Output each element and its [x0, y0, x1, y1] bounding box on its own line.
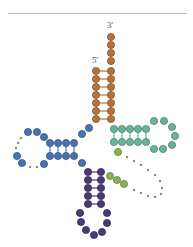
d-arm-nucleotide [13, 152, 20, 159]
variable-loop-nucleotide [106, 172, 113, 179]
t-arm-nucleotide [142, 125, 149, 132]
unpaired-dot [126, 156, 128, 158]
unpaired-dot [140, 164, 142, 166]
acceptor-nucleotide [107, 107, 114, 114]
unpaired-dot [161, 187, 163, 189]
anticodon-nucleotide [76, 209, 83, 216]
t-arm-nucleotide [134, 125, 141, 132]
d-arm-nucleotide [54, 139, 61, 146]
anticodon-nucleotide [103, 219, 110, 226]
acceptor-nucleotide [92, 115, 99, 122]
anticodon-nucleotide [97, 200, 104, 207]
variable-loop-nucleotide [120, 180, 127, 187]
unpaired-dot [133, 160, 135, 162]
base-pair-lines [50, 71, 146, 204]
unpaired-dot [154, 196, 156, 198]
unpaired-dot [15, 147, 17, 149]
d-arm-nucleotide [70, 152, 77, 159]
acceptor-nucleotide [107, 49, 114, 56]
t-arm-nucleotide [150, 117, 157, 124]
t-arm-nucleotide [168, 123, 175, 130]
acceptor-nucleotide [107, 99, 114, 106]
unpaired-dot [160, 193, 162, 195]
t-arm-nucleotide [118, 138, 125, 145]
anticodon-nucleotide [84, 200, 91, 207]
variable-loop-nucleotide [114, 148, 121, 155]
t-arm-nucleotide [142, 138, 149, 145]
acceptor-nucleotide [92, 75, 99, 82]
acceptor-nucleotide [92, 91, 99, 98]
acceptor-nucleotide [92, 107, 99, 114]
anticodon-nucleotide [84, 184, 91, 191]
t-arm-nucleotide [150, 145, 157, 152]
unpaired-dot [147, 195, 149, 197]
acceptor-nucleotide [92, 83, 99, 90]
acceptor-nucleotide [107, 41, 114, 48]
anticodon-nucleotide [97, 192, 104, 199]
t-arm-nucleotide [126, 125, 133, 132]
anticodon-nucleotide [90, 231, 97, 238]
d-arm-nucleotide [18, 159, 25, 166]
d-arm-nucleotide [78, 130, 85, 137]
anticodon-nucleotide [84, 192, 91, 199]
d-arm-nucleotide [85, 124, 92, 131]
unpaired-dot [154, 174, 156, 176]
unpaired-dot [17, 142, 19, 144]
d-arm-nucleotide [40, 133, 47, 140]
t-arm-nucleotide [134, 138, 141, 145]
d-arm-nucleotide [62, 139, 69, 146]
acceptor-nucleotide [107, 33, 114, 40]
d-arm-nucleotide [33, 128, 40, 135]
acceptor-nucleotide [107, 115, 114, 122]
t-arm-nucleotide [160, 117, 167, 124]
anticodon-nucleotide [82, 226, 89, 233]
acceptor-nucleotide [92, 67, 99, 74]
t-arm-nucleotide [126, 138, 133, 145]
acceptor-nucleotide [107, 57, 114, 64]
unpaired-dot [133, 189, 135, 191]
d-arm-nucleotide [46, 152, 53, 159]
anticodon-nucleotide [103, 209, 110, 216]
anticodon-nucleotide [97, 176, 104, 183]
acceptor-nucleotide [107, 75, 114, 82]
three-prime-label: 3' [107, 20, 114, 30]
anticodon-nucleotide [97, 168, 104, 175]
unpaired-dot [140, 192, 142, 194]
anticodon-nucleotide [84, 176, 91, 183]
d-arm-nucleotide [40, 160, 47, 167]
unpaired-dot [36, 166, 38, 168]
t-arm-nucleotide [159, 145, 166, 152]
d-arm-nucleotide [24, 128, 31, 135]
acceptor-nucleotide [107, 67, 114, 74]
anticodon-nucleotide [84, 168, 91, 175]
anticodon-nucleotide [97, 184, 104, 191]
acceptor-nucleotide [107, 91, 114, 98]
trna-cloverleaf-diagram: 3' 5' [0, 0, 193, 247]
five-prime-label: 5' [92, 55, 99, 65]
d-arm-nucleotide [62, 152, 69, 159]
t-arm-nucleotide [168, 141, 175, 148]
d-arm-nucleotide [70, 139, 77, 146]
variable-loop-nucleotide [113, 176, 120, 183]
acceptor-nucleotide [107, 83, 114, 90]
unpaired-dot [147, 169, 149, 171]
anticodon-nucleotide [77, 218, 84, 225]
d-arm-nucleotide [78, 159, 85, 166]
d-arm-nucleotide [46, 139, 53, 146]
unpaired-dot [20, 137, 22, 139]
unpaired-dot [159, 180, 161, 182]
d-arm-nucleotide [54, 152, 61, 159]
anticodon-nucleotide [98, 228, 105, 235]
acceptor-nucleotide [92, 99, 99, 106]
t-arm-nucleotide [110, 138, 117, 145]
unpaired-dot [29, 166, 31, 168]
t-arm-nucleotide [171, 132, 178, 139]
t-arm-nucleotide [110, 125, 117, 132]
t-arm-nucleotide [118, 125, 125, 132]
